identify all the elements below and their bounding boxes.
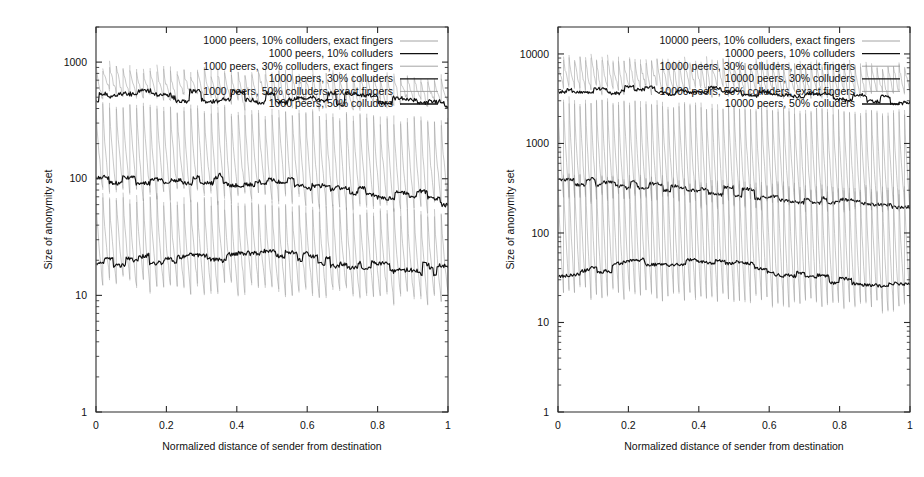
- y-axis-label: Size of anonymity set: [42, 170, 54, 270]
- legend-label: 1000 peers, 50% colluders, exact fingers: [203, 85, 393, 97]
- x-tick-label: 0.6: [300, 419, 315, 431]
- legend-label: 10000 peers, 30% colluders, exact finger…: [659, 60, 855, 72]
- legend-label: 10000 peers, 10% colluders, exact finger…: [659, 34, 855, 46]
- y-tick-label: 1000: [526, 137, 550, 149]
- x-axis-label: Normalized distance of sender from desti…: [624, 440, 844, 452]
- series-line-2: [96, 102, 448, 214]
- legend-label: 1000 peers, 10% colluders, exact fingers: [203, 34, 393, 46]
- x-axis-label: Normalized distance of sender from desti…: [162, 440, 382, 452]
- x-tick-label: 0.2: [621, 419, 636, 431]
- chart-panel-left: 110100100000.20.40.60.81Normalized dista…: [0, 0, 462, 477]
- legend-label: 10000 peers, 10% colluders: [725, 47, 855, 59]
- y-tick-label: 10: [75, 289, 87, 301]
- x-tick-label: 0.2: [159, 419, 174, 431]
- y-tick-label: 1: [81, 406, 87, 418]
- legend-label: 10000 peers, 50% colluders, exact finger…: [659, 85, 855, 97]
- x-tick-label: 1: [445, 419, 451, 431]
- x-tick-label: 0.8: [832, 419, 847, 431]
- figure-two-panel-anonymity-set: 110100100000.20.40.60.81Normalized dista…: [0, 0, 924, 477]
- chart-panel-right: 11010010001000000.20.40.60.81Normalized …: [462, 0, 924, 477]
- y-tick-label: 100: [69, 172, 87, 184]
- x-tick-label: 0: [93, 419, 99, 431]
- y-tick-label: 10: [537, 316, 549, 328]
- y-tick-label: 10000: [520, 48, 549, 60]
- y-tick-label: 1: [543, 406, 549, 418]
- legend-label: 1000 peers, 10% colluders: [269, 47, 393, 59]
- x-tick-label: 0.8: [370, 419, 385, 431]
- legend-label: 1000 peers, 50% colluders: [269, 97, 393, 109]
- legend-label: 1000 peers, 30% colluders: [269, 72, 393, 84]
- chart-svg-right: 11010010001000000.20.40.60.81Normalized …: [462, 0, 924, 477]
- y-tick-label: 100: [531, 227, 549, 239]
- series-line-4: [96, 193, 448, 306]
- x-tick-label: 0: [555, 419, 561, 431]
- legend-label: 10000 peers, 30% colluders: [725, 72, 855, 84]
- x-tick-label: 0.4: [691, 419, 706, 431]
- chart-svg-left: 110100100000.20.40.60.81Normalized dista…: [0, 0, 462, 477]
- x-tick-label: 0.6: [762, 419, 777, 431]
- legend-label: 1000 peers, 30% colluders, exact fingers: [203, 60, 393, 72]
- y-axis-label: Size of anonymity set: [504, 170, 516, 270]
- x-tick-label: 0.4: [229, 419, 244, 431]
- series-line-4: [558, 173, 910, 313]
- legend-label: 10000 peers, 50% colluders: [725, 97, 855, 109]
- y-tick-label: 1000: [64, 56, 88, 68]
- x-tick-label: 1: [907, 419, 913, 431]
